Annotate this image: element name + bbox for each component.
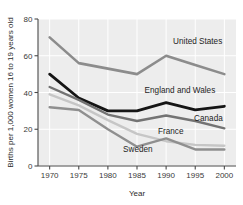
y-tick-label: 40 xyxy=(24,89,33,98)
series-label-united-states: United States xyxy=(173,37,222,46)
x-tick-label: 1980 xyxy=(99,171,117,180)
x-tick-label: 1970 xyxy=(41,171,59,180)
x-tick-label: 1985 xyxy=(128,171,146,180)
x-tick-label: 1995 xyxy=(186,171,204,180)
x-tick-label: 1990 xyxy=(157,171,175,180)
series-label-france: France xyxy=(158,127,184,136)
x-tick-label: 2000 xyxy=(215,171,233,180)
series-label-england-and-wales: England and Wales xyxy=(145,86,216,95)
y-tick-label: 0 xyxy=(28,162,33,171)
x-tick-label: 1975 xyxy=(70,171,88,180)
series-label-sweden: Sweden xyxy=(123,145,153,154)
y-tick-label: 80 xyxy=(24,15,33,24)
y-tick-label: 60 xyxy=(24,52,33,61)
y-tick-label: 20 xyxy=(24,125,33,134)
chart-container: 020406080 1970197519801985199019952000 U… xyxy=(0,0,243,205)
series-label-canada: Canada xyxy=(194,114,223,123)
y-axis-title: Births per 1,000 women 16 to 19 years ol… xyxy=(6,17,15,167)
line-chart: 020406080 1970197519801985199019952000 U… xyxy=(0,0,243,205)
x-axis-title: Year xyxy=(129,189,146,198)
